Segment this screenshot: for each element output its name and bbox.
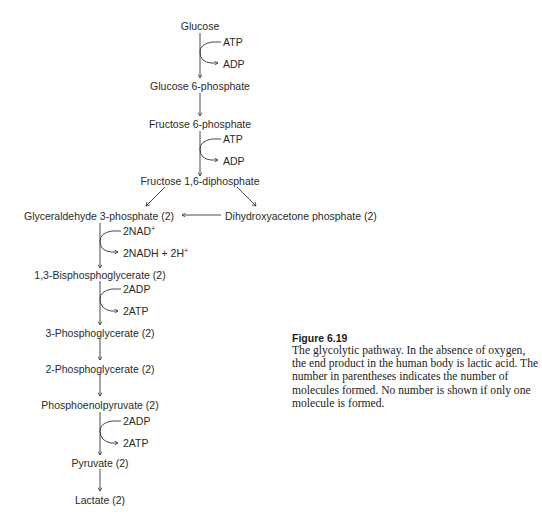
node-fructose-1-6-diphosphate: Fructose 1,6-diphosphate [140, 175, 259, 187]
arrow-f16dp-dhap [237, 187, 256, 206]
cofactor-in-2: ATP [223, 133, 243, 145]
cofactor-arrow-4 [100, 289, 121, 311]
node-glucose-6-phosphate: Glucose 6-phosphate [150, 80, 250, 92]
node-2-phosphoglycerate: 2-Phosphoglycerate (2) [45, 363, 154, 375]
cofactor-in-3: 2NAD+ [123, 225, 155, 237]
cofactor-in-4: 2ADP [123, 283, 150, 295]
cofactor-arrow-2 [200, 139, 221, 160]
node-dihydroxyacetone-phosphate: Dihydroxyacetone phosphate (2) [225, 210, 377, 222]
node-1-3-bisphosphoglycerate: 1,3-Bisphosphoglycerate (2) [34, 269, 165, 281]
cofactor-out-2: ADP [223, 155, 245, 167]
cofactor-in-5: 2ADP [123, 415, 150, 427]
cofactor-in-3-sup: + [151, 225, 155, 232]
node-pyruvate: Pyruvate (2) [71, 457, 128, 469]
cofactor-arrow-3 [100, 231, 121, 252]
node-glyceraldehyde-3-phosphate: Glyceraldehyde 3-phosphate (2) [24, 210, 174, 222]
cofactor-out-3-text: 2NADH + 2H [123, 247, 184, 259]
cofactor-out-1: ADP [223, 58, 245, 70]
caption-title: Figure 6.19 [292, 332, 542, 344]
cofactor-arrow-1 [200, 42, 221, 63]
node-phosphoenolpyruvate: Phosphoenolpyruvate (2) [41, 399, 158, 411]
cofactor-arrow-5 [100, 421, 121, 443]
node-glucose: Glucose [181, 20, 220, 32]
node-lactate: Lactate (2) [75, 494, 125, 506]
cofactor-out-4: 2ATP [123, 305, 148, 317]
figure-caption: Figure 6.19 The glycolytic pathway. In t… [292, 332, 542, 410]
node-3-phosphoglycerate: 3-Phosphoglycerate (2) [45, 327, 154, 339]
node-fructose-6-phosphate: Fructose 6-phosphate [149, 118, 251, 130]
cofactor-in-1: ATP [223, 36, 243, 48]
pathway-arrows [0, 0, 542, 528]
arrow-f16dp-g3p [146, 187, 165, 206]
cofactor-out-5: 2ATP [123, 437, 148, 449]
cofactor-out-3: 2NADH + 2H+ [123, 247, 188, 259]
cofactor-out-3-sup: + [184, 247, 188, 254]
cofactor-in-3-text: 2NAD [123, 225, 151, 237]
caption-text: The glycolytic pathway. In the absence o… [292, 344, 542, 410]
